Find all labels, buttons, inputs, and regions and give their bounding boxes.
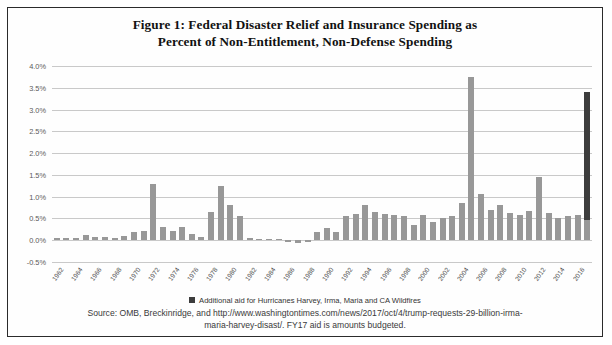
bar-column [565,66,571,262]
bar-column [256,66,262,262]
x-axis-tick-label: 2004 [450,266,469,290]
x-axis-tick-label: 1988 [296,266,315,290]
bar-segment-spending [517,215,523,240]
bar-segment-spending [584,220,590,240]
bar-segment-spending [218,186,224,240]
bar-column [507,66,513,262]
bar-segment-additional-aid [584,92,590,220]
bar-column [276,66,282,262]
x-axis-tick-label: 2010 [508,266,527,290]
bar-column [372,66,378,262]
bar-segment-spending [150,184,156,241]
bar-column [305,66,311,262]
bar-column [102,66,108,262]
bar-column [112,66,118,262]
bar-segment-spending [401,216,407,240]
bar-segment-spending [92,237,98,240]
source-line-2: maria-harvey-disast/. FY17 aid is amount… [8,320,602,332]
bar-segment-spending [160,227,166,240]
bar-column [314,66,320,262]
bar-segment-spending [478,194,484,240]
bar-segment-spending [189,234,195,241]
x-axis-tick-label: 2014 [546,266,565,290]
bar-segment-spending [333,232,339,240]
bar-column [459,66,465,262]
bar-segment-spending [227,205,233,240]
y-axis-tick-label: 2.5% [12,127,46,136]
figure-frame: Figure 1: Federal Disaster Relief and In… [7,7,603,337]
bar-segment-spending [73,238,79,241]
x-axis-tick-label: 1986 [276,266,295,290]
bar-segment-spending [565,216,571,240]
y-axis-tick-label: -0.5% [12,258,46,267]
x-axis-tick-label: 1992 [334,266,353,290]
bar-segment-spending [237,216,243,240]
x-axis-tick-label: 2000 [411,266,430,290]
x-axis-tick-label: 1974 [161,266,180,290]
bar-segment-spending [411,225,417,240]
bar-column [285,66,291,262]
x-axis-tick-label: 1996 [373,266,392,290]
x-axis-tick-label: 2012 [527,266,546,290]
bar-segment-spending [372,212,378,240]
bar-segment-spending [305,240,311,242]
bar-column [362,66,368,262]
x-axis-tick-label: 1976 [180,266,199,290]
bar-segment-spending [247,238,253,240]
bar-column [179,66,185,262]
bar-column [141,66,147,262]
bar-segment-spending [266,239,272,240]
bar-column [121,66,127,262]
bar-segment-spending [575,215,581,240]
bar-column [517,66,523,262]
bar-segment-spending [170,231,176,241]
bar-segment-spending [83,235,89,240]
bar-segment-spending [440,218,446,240]
bar-segment-spending [362,205,368,240]
bar-column [227,66,233,262]
y-axis-tick-label: 3.5% [12,83,46,92]
bar-column [189,66,195,262]
bar-column [208,66,214,262]
bar-segment-spending [256,239,262,240]
bar-column [430,66,436,262]
bar-segment-spending [131,232,137,241]
bar-column [584,66,590,262]
bar-column [497,66,503,262]
chart-legend: Additional aid for Hurricanes Harvey, Ir… [8,295,602,305]
bar-segment-spending [179,227,185,240]
bar-segment-spending [536,177,542,240]
bar-column [449,66,455,262]
x-axis-tick-label: 1984 [257,266,276,290]
bar-column [391,66,397,262]
bar-column [266,66,272,262]
x-axis-tick-label: 1962 [45,266,64,290]
x-axis-tick-label: 2006 [469,266,488,290]
x-axis-tick-label: 1978 [199,266,218,290]
title-line-1: Figure 1: Federal Disaster Relief and In… [8,16,602,33]
y-axis-tick-label: 1.5% [12,170,46,179]
bar-column [324,66,330,262]
bar-column [73,66,79,262]
bar-segment-spending [324,228,330,240]
legend-label-additional-aid: Additional aid for Hurricanes Harvey, Ir… [199,296,421,305]
bar-segment-spending [420,215,426,240]
y-axis-tick-label: 0.5% [12,214,46,223]
legend-swatch-additional-aid [189,297,195,303]
bar-column [218,66,224,262]
bar-column [575,66,581,262]
bar-segment-spending [488,210,494,240]
bar-segment-spending [295,240,301,243]
bar-column [440,66,446,262]
bar-column [536,66,542,262]
bar-column [382,66,388,262]
bar-segment-spending [314,232,320,241]
bar-column [160,66,166,262]
x-axis-tick-label: 1994 [354,266,373,290]
bar-segment-spending [391,215,397,240]
bar-column [420,66,426,262]
bar-segment-spending [102,237,108,240]
bar-column [295,66,301,262]
bar-column [131,66,137,262]
bar-segment-spending [285,240,291,242]
